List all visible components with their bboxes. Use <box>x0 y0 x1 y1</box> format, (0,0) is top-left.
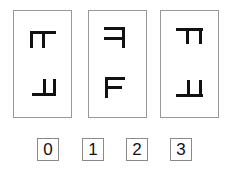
card-2 <box>88 10 147 118</box>
answer-option-2[interactable]: 2 <box>126 138 148 161</box>
card-1 <box>13 10 72 118</box>
card-3 <box>160 10 219 118</box>
answer-label: 2 <box>132 141 141 158</box>
answer-label: 0 <box>43 141 52 158</box>
answer-label: 3 <box>176 141 185 158</box>
answer-label: 1 <box>88 141 97 158</box>
answer-option-1[interactable]: 1 <box>82 138 104 161</box>
answer-option-3[interactable]: 3 <box>170 138 192 161</box>
answer-option-0[interactable]: 0 <box>37 138 59 161</box>
